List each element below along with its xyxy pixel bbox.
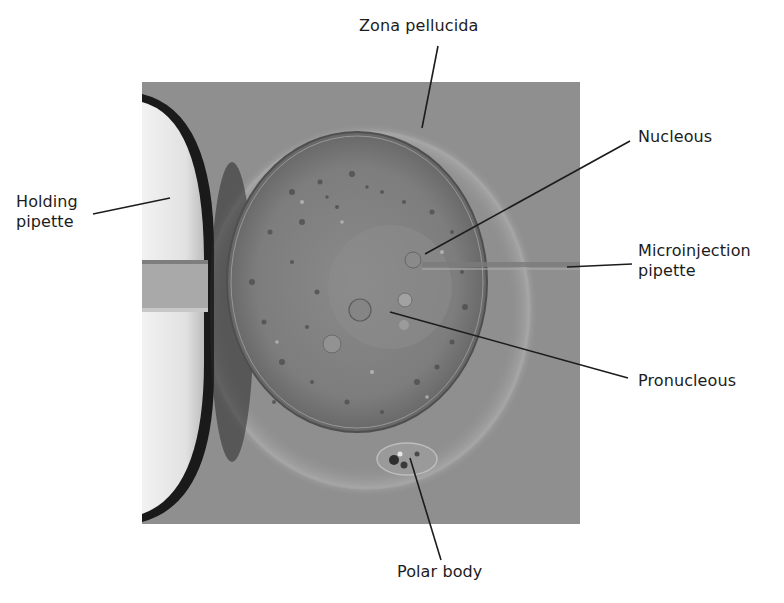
label-holding-pipette: Holding pipette [16,192,78,232]
label-holding-pipette-line2: pipette [16,212,78,232]
label-zona-pellucida: Zona pellucida [359,16,478,36]
micrograph-image [142,82,580,524]
label-polar-body: Polar body [397,562,482,582]
label-holding-pipette-line1: Holding [16,192,78,212]
label-microinjection-pipette-line2: pipette [638,261,751,281]
label-microinjection-pipette-line1: Microinjection [638,241,751,261]
label-nucleous: Nucleous [638,127,712,147]
micrograph-illustration [142,82,580,524]
label-pronucleous: Pronucleous [638,371,736,391]
label-microinjection-pipette: Microinjection pipette [638,241,751,281]
